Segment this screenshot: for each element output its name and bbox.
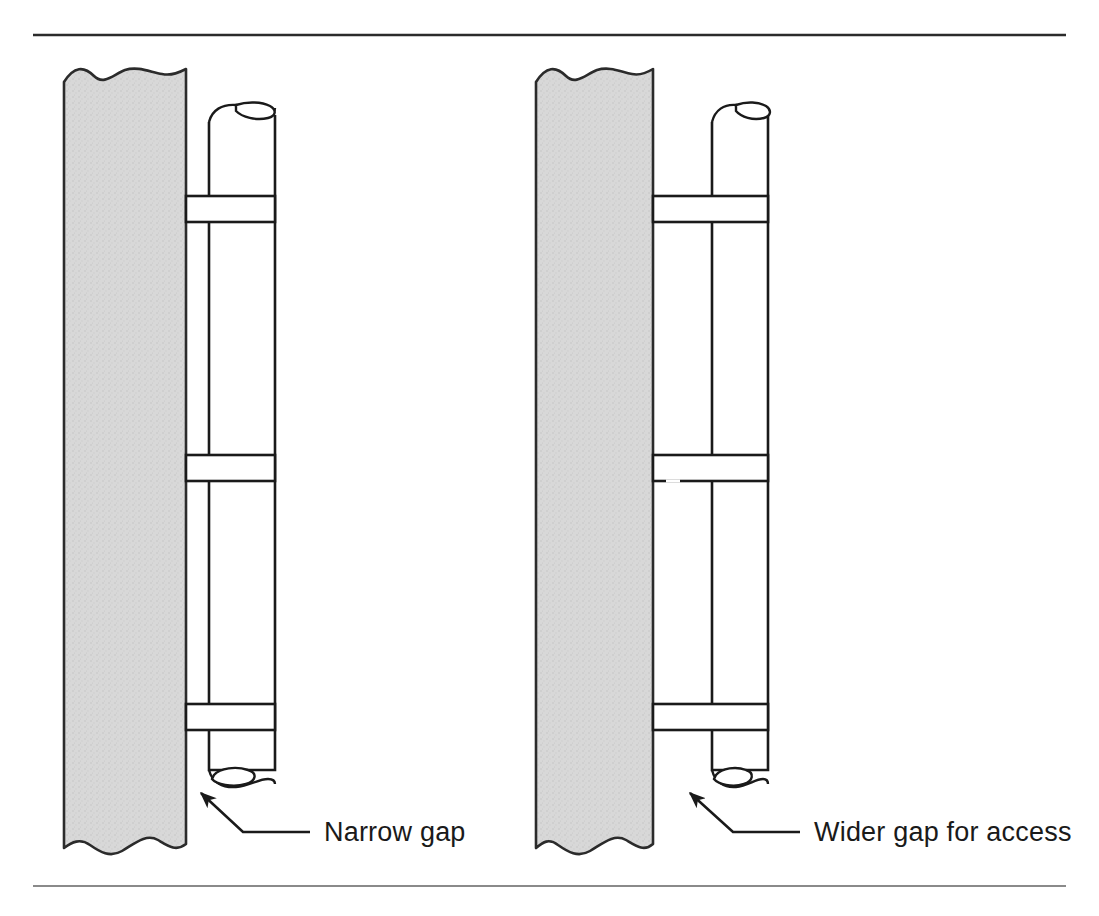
pipe-gap-diagram: Narrow gap Wider gap for access — [0, 0, 1099, 916]
wall-section — [64, 69, 186, 854]
wall-section — [536, 69, 653, 854]
figure-root: Narrow gap Wider gap for access — [0, 0, 1099, 916]
lower-bracket — [186, 704, 275, 730]
lower-bracket — [653, 704, 768, 730]
middle-bracket — [653, 455, 768, 481]
wider-gap-label: Wider gap for access — [814, 817, 1072, 847]
pipe-bottom-ellipse — [212, 768, 255, 786]
pipe-top-ellipse — [736, 102, 770, 119]
upper-bracket — [186, 196, 275, 222]
middle-bracket — [186, 455, 275, 481]
narrow-gap-label: Narrow gap — [324, 817, 466, 847]
upper-bracket — [653, 196, 768, 222]
pipe-bottom-ellipse — [714, 768, 752, 786]
